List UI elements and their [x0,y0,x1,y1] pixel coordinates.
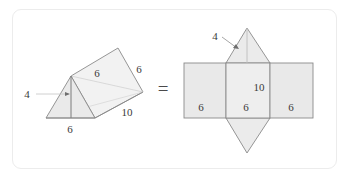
net-triangle-height-label: 4 [212,30,218,42]
triangular-prism-figure: 4 6 6 6 10 [24,48,143,135]
net-top-triangle [226,28,270,63]
net-right-width-label: 6 [288,101,294,113]
net-rectangle-height-label: 10 [254,81,266,93]
diagram-canvas: 4 6 6 6 10 = 4 10 [0,0,349,179]
prism-height-label: 4 [24,88,30,100]
prism-side-edge-label: 6 [136,63,142,75]
net-middle-width-label: 6 [243,101,249,113]
prism-length-label: 10 [122,106,134,118]
prism-base-label: 6 [67,123,73,135]
prism-net-figure: 4 10 6 6 6 [184,28,313,153]
geometry-illustration: 4 6 6 6 10 = 4 10 [0,0,349,179]
equals-sign: = [158,78,169,99]
net-left-width-label: 6 [198,101,204,113]
net-left-rectangle [184,63,226,118]
prism-slant-label: 6 [94,67,100,79]
net-bottom-triangle [226,118,270,153]
